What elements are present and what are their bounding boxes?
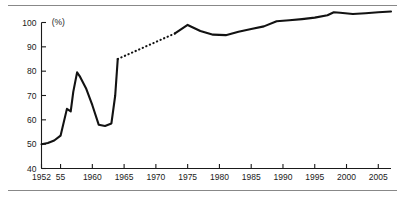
x-tick-label: 2000 (337, 172, 356, 182)
x-tick-label: 1980 (210, 172, 229, 182)
chart-figure: 405060708090100 195255196019651970197519… (0, 0, 405, 198)
x-axis: 1952551960196519701975198019851990199520… (32, 164, 391, 182)
y-tick-label: 70 (27, 91, 37, 101)
series-line-dotted-interpolated (118, 33, 175, 59)
x-tick-label: 55 (56, 172, 66, 182)
x-tick-label: 2005 (369, 172, 388, 182)
series-line-solid-late (175, 12, 391, 36)
unit-annotation: (%) (52, 17, 65, 27)
line-chart-plot: 405060708090100 195255196019651970197519… (0, 0, 405, 198)
x-tick-label: 1952 (32, 172, 51, 182)
series-line-solid-early (42, 59, 118, 144)
x-tick-label: 1970 (146, 172, 165, 182)
x-tick-label: 1990 (274, 172, 293, 182)
x-tick-label: 1995 (305, 172, 324, 182)
x-tick-label: 1985 (242, 172, 261, 182)
x-tick-label: 1965 (115, 172, 134, 182)
y-tick-label: 80 (27, 66, 37, 76)
data-series-group (42, 12, 392, 145)
y-tick-label: 50 (27, 139, 37, 149)
y-tick-label: 100 (22, 18, 36, 28)
x-tick-label: 1960 (83, 172, 102, 182)
x-tick-label: 1975 (178, 172, 197, 182)
y-tick-label: 60 (27, 115, 37, 125)
y-tick-label: 90 (27, 42, 37, 52)
y-axis: 405060708090100 (22, 18, 46, 174)
annotation-group: (%) (52, 17, 65, 27)
